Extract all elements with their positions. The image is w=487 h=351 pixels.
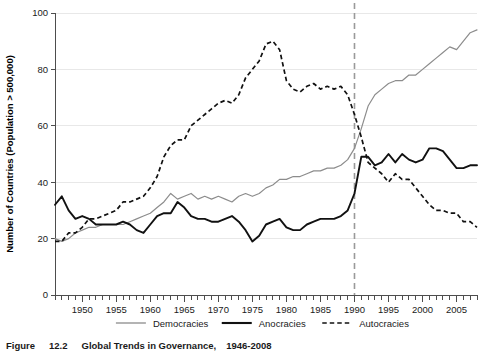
legend-label-democracies: Democracies [153, 318, 209, 329]
legend-label-anocracies: Anocracies [259, 318, 306, 329]
y-tick-label-0: 0 [43, 289, 48, 300]
series-line-democracies [55, 30, 477, 242]
series-line-anocracies [55, 148, 477, 241]
y-tick-label-60: 60 [37, 120, 48, 131]
figure-caption: Figure12.2Global Trends in Governance,19… [6, 340, 476, 351]
tick-marks [51, 13, 477, 302]
caption-title: Global Trends in Governance, [82, 340, 217, 351]
x-tick-label-1985: 1985 [310, 304, 331, 315]
y-tick-label-80: 80 [37, 64, 48, 75]
legend-item-autocracies[interactable]: Autocracies [322, 318, 409, 329]
legend-item-anocracies[interactable]: Anocracies [222, 318, 306, 329]
y-tick-label-100: 100 [32, 7, 48, 18]
caption-label: Figure [6, 340, 35, 351]
x-tick-labels: 1950195519601965197019751980198519901995… [72, 304, 467, 315]
x-tick-label-1950: 1950 [72, 304, 93, 315]
x-tick-label-1990: 1990 [344, 304, 365, 315]
y-tick-label-20: 20 [37, 233, 48, 244]
x-tick-label-1970: 1970 [208, 304, 229, 315]
x-tick-label-1975: 1975 [242, 304, 263, 315]
x-tick-label-1980: 1980 [276, 304, 297, 315]
x-tick-label-1965: 1965 [174, 304, 195, 315]
y-axis-title: Number of Countries (Population > 500,00… [4, 55, 15, 253]
x-tick-label-1955: 1955 [106, 304, 127, 315]
x-tick-label-1960: 1960 [140, 304, 161, 315]
y-axis-title: Number of Countries (Population > 500,00… [4, 55, 15, 253]
data-series [55, 30, 477, 242]
axes [55, 13, 477, 295]
gridlines [55, 13, 477, 239]
chart-legend: DemocraciesAnocraciesAutocracies [116, 318, 409, 329]
y-tick-label-40: 40 [37, 177, 48, 188]
caption-number: 12.2 [49, 340, 68, 351]
x-tick-label-1995: 1995 [378, 304, 399, 315]
x-tick-label-2000: 2000 [412, 304, 433, 315]
legend-item-democracies[interactable]: Democracies [116, 318, 209, 329]
y-tick-labels: 020406080100 [32, 7, 48, 300]
x-tick-label-2005: 2005 [446, 304, 467, 315]
legend-label-autocracies: Autocracies [359, 318, 409, 329]
caption-years: 1946-2008 [226, 340, 271, 351]
series-line-autocracies [55, 41, 477, 241]
